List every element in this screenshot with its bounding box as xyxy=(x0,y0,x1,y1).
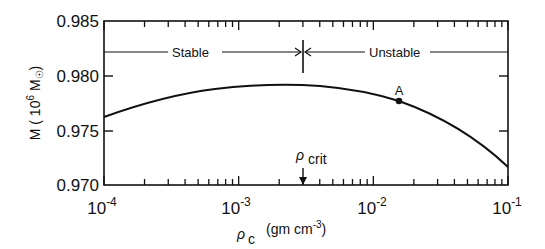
chart-figure: 0.985 0.980 0.975 0.970 10-4 10-3 10-2 1… xyxy=(0,0,545,249)
stable-label: Stable xyxy=(172,45,209,60)
x-tick-labels: 10-4 10-3 10-2 10-1 xyxy=(87,195,522,218)
x-tick-1e-4: 10-4 xyxy=(87,195,117,218)
stability-indicator: Stable Unstable xyxy=(104,40,508,73)
y-tick-0985: 0.985 xyxy=(56,12,99,31)
x-ticks xyxy=(104,21,508,185)
svg-text:(gm cm-3): (gm cm-3) xyxy=(266,219,326,237)
y-tick-0970: 0.970 xyxy=(56,176,99,195)
x-tick-1e-3: 10-3 xyxy=(221,195,251,218)
y-axis-label: M ( 106 M☉) xyxy=(25,66,45,140)
svg-text:ρ: ρ xyxy=(295,147,304,163)
plot-frame xyxy=(104,21,508,185)
point-a-marker xyxy=(396,98,403,105)
unstable-label: Unstable xyxy=(369,45,420,60)
arrow-down-icon xyxy=(299,177,307,185)
y-tick-0980: 0.980 xyxy=(56,67,99,86)
x-axis-label: ρ c (gm cm-3) xyxy=(236,219,326,247)
svg-text:crit: crit xyxy=(308,151,327,167)
rho-crit-annotation: ρ crit xyxy=(295,147,327,185)
y-tick-0975: 0.975 xyxy=(56,122,99,141)
sun-symbol: ☉ xyxy=(34,70,45,79)
point-a-label: A xyxy=(395,83,404,98)
y-tick-labels: 0.985 0.980 0.975 0.970 xyxy=(56,12,99,195)
x-tick-1e-1: 10-1 xyxy=(492,195,522,218)
svg-text:M ( 106 M☉): M ( 106 M☉) xyxy=(25,66,45,140)
mass-curve xyxy=(104,85,508,167)
x-tick-1e-2: 10-2 xyxy=(357,195,387,218)
svg-text:ρ: ρ xyxy=(236,226,245,242)
svg-text:c: c xyxy=(248,231,255,247)
